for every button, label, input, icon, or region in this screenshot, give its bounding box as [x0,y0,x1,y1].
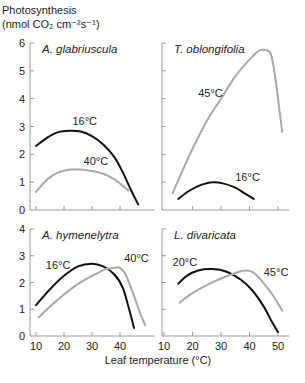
x-tick-label: 40 [243,340,255,352]
panels: 0123456A. glabriuscula16°C40°CT. oblongi… [19,37,289,352]
panel-bottom-left: 0123410203040A. hymenelytra16°C40°C [19,223,155,352]
series-label: 40°C [124,252,149,264]
y-tick-label: 0 [19,330,25,342]
y-tick-label: 3 [19,250,25,262]
panel-title: A. glabriuscula [41,43,117,55]
series-line [36,264,134,328]
series-label: 16°C [72,115,97,127]
panel-bottom-right: 1020304050L. divaricata20°C45°C [158,229,289,352]
series-line [178,182,254,199]
x-tick-label: 40 [114,340,126,352]
y-tick-label: 4 [19,223,25,235]
y-axis-label-line2: (nmol CO₂ cm⁻²s⁻¹) [2,18,100,30]
y-tick-label: 4 [19,93,25,105]
series-label: 40°C [84,155,109,167]
y-tick-label: 1 [19,176,25,188]
y-tick-label: 1 [19,303,25,315]
x-tick-label: 20 [58,340,70,352]
series-line [173,50,283,194]
x-tick-label: 10 [158,340,170,352]
y-tick-label: 2 [19,277,25,289]
photosynthesis-chart: Photosynthesis (nmol CO₂ cm⁻²s⁻¹) 012345… [0,0,305,383]
panel-top-right: T. oblongifolia45°C16°C [162,43,289,210]
y-tick-label: 5 [19,65,25,77]
series-label: 20°C [173,256,198,268]
series-line [36,169,128,192]
x-tick-label: 30 [215,340,227,352]
x-tick-label: 50 [272,340,284,352]
y-axis-label-line1: Photosynthesis [2,4,77,16]
y-tick-label: 0 [19,204,25,216]
series-label: 45°C [264,266,289,278]
series-line [36,131,138,205]
series-label: 16°C [235,171,260,183]
panel-title: A. hymenelytra [41,229,119,241]
x-tick-label: 30 [86,340,98,352]
series-label: 16°C [46,259,71,271]
panel-top-left: 0123456A. glabriuscula16°C40°C [19,37,155,216]
axis-lines [30,229,155,336]
x-tick-label: 10 [30,340,42,352]
y-tick-label: 3 [19,121,25,133]
panel-title: L. divaricata [174,229,236,241]
x-axis-label: Leaf temperature (°C) [105,354,212,366]
y-tick-label: 2 [19,148,25,160]
series-label: 45°C [198,87,223,99]
x-tick-label: 20 [186,340,198,352]
y-tick-label: 6 [19,37,25,49]
series-line [39,267,145,325]
panel-title: T. oblongifolia [174,43,245,55]
series-line [178,269,278,332]
